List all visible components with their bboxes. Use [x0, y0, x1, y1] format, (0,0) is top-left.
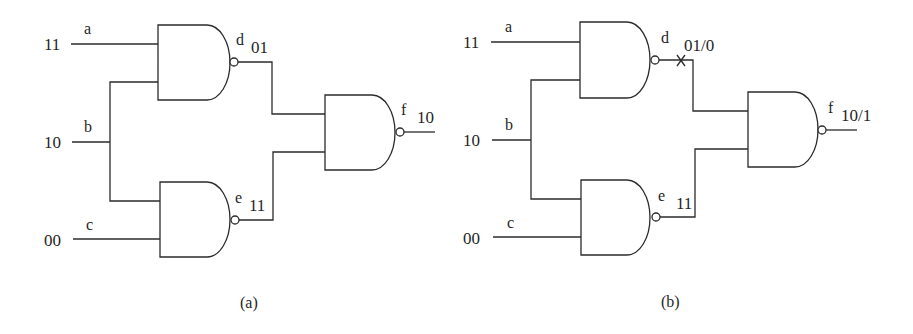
net-value-e: 11 — [676, 194, 692, 213]
net-value-d: 01 — [251, 38, 268, 57]
net-label-a: a — [505, 18, 512, 35]
net-label-e: e — [658, 187, 665, 204]
net-label-c: c — [507, 214, 514, 231]
net-value-f: 10/1 — [841, 106, 871, 125]
nand-gate-f — [325, 95, 395, 170]
inverter-bubble-d — [230, 58, 238, 66]
net-label-b: b — [505, 116, 513, 133]
inverter-bubble-e — [231, 216, 239, 224]
caption-a: (a) — [240, 294, 258, 312]
inverter-bubble-e — [652, 213, 660, 221]
input-c-value: 00 — [44, 231, 61, 250]
net-label-a: a — [84, 20, 91, 37]
net-value-e: 11 — [249, 196, 265, 215]
net-value-f: 10 — [417, 108, 434, 127]
input-a-value: 11 — [44, 35, 60, 54]
net-value-d: 01/0 — [684, 36, 714, 55]
input-b-value: 10 — [44, 133, 61, 152]
input-c-value: 00 — [463, 229, 480, 248]
net-label-d: d — [236, 31, 244, 48]
wire-d — [238, 62, 325, 114]
net-label-b: b — [84, 118, 92, 135]
nand-gate-f — [748, 92, 818, 167]
inverter-bubble-d — [651, 56, 659, 64]
net-label-c: c — [86, 216, 93, 233]
wire-b-fanout — [531, 80, 581, 199]
nand-gate-e — [160, 182, 230, 257]
nand-circuit-figure: 11 10 00 a b c d 01 e 11 f 10 (a) — [0, 0, 913, 334]
caption-b: (b) — [661, 293, 680, 311]
circuit-b: 11 10 00 a b c d 01/0 e 11 f 10/1 — [463, 18, 871, 311]
nand-gate-d — [580, 22, 650, 98]
net-label-e: e — [235, 189, 242, 206]
net-label-f: f — [401, 101, 407, 118]
nand-gate-d — [158, 25, 230, 100]
net-label-d: d — [661, 29, 669, 46]
nand-gate-e — [581, 180, 650, 255]
circuit-a: 11 10 00 a b c d 01 e 11 f 10 (a) — [44, 20, 435, 312]
inverter-bubble-f — [396, 128, 404, 136]
inverter-bubble-f — [818, 126, 826, 134]
wire-e — [660, 149, 748, 217]
wire-d — [659, 60, 748, 111]
input-a-value: 11 — [463, 33, 479, 52]
input-b-value: 10 — [463, 131, 480, 150]
wire-b-fanout — [110, 82, 160, 201]
net-label-f: f — [828, 99, 834, 116]
